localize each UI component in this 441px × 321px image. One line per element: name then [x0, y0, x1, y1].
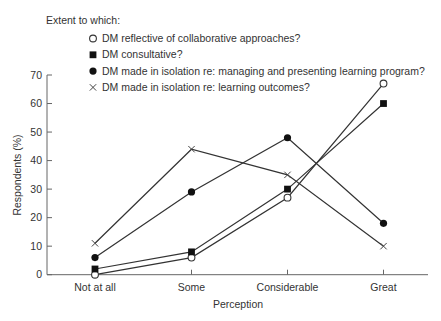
x-axis-label: Perception — [213, 298, 263, 310]
x-tick-label: Some — [178, 281, 206, 293]
series-line — [95, 104, 384, 270]
filled-circle-marker — [188, 188, 195, 195]
y-tick-label: 10 — [30, 240, 42, 252]
open-circle-marker — [380, 80, 387, 87]
cross-marker — [92, 240, 98, 246]
series-markers — [92, 80, 387, 278]
line-chart: Extent to which: DM reflective of collab… — [0, 0, 441, 321]
series-line — [95, 138, 384, 258]
filled-square-marker — [188, 248, 195, 255]
filled-square-marker — [380, 100, 387, 107]
legend-item-label: DM reflective of collaborative approache… — [102, 32, 301, 44]
open-circle-marker — [90, 35, 97, 42]
filled-circle-marker — [91, 254, 98, 261]
filled-circle-marker — [284, 134, 291, 141]
series-filled-circle — [95, 138, 384, 258]
open-circle-marker — [284, 194, 291, 201]
series-markers — [91, 134, 387, 261]
cross-marker — [284, 172, 290, 178]
series-line — [95, 149, 384, 246]
y-tick-label: 40 — [30, 154, 42, 166]
series-filled-square — [95, 104, 384, 270]
series-open-circle — [95, 84, 384, 275]
cross-marker — [188, 146, 194, 152]
series-line — [95, 84, 384, 275]
y-tick-label: 20 — [30, 211, 42, 223]
y-axis-label: Respondents (%) — [11, 134, 23, 215]
x-tick-label: Great — [370, 281, 396, 293]
x-tick-label: Considerable — [257, 281, 319, 293]
legend-title: Extent to which: — [46, 14, 120, 26]
filled-circle-marker — [89, 68, 96, 75]
filled-square-marker — [90, 51, 97, 58]
legend: Extent to which: DM reflective of collab… — [46, 14, 425, 93]
x-tick-label: Not at all — [74, 281, 115, 293]
filled-square-marker — [284, 186, 291, 193]
legend-item-label: DM consultative? — [102, 48, 183, 60]
cross-marker — [90, 84, 96, 90]
y-tick-label: 50 — [30, 126, 42, 138]
filled-square-marker — [92, 266, 99, 273]
filled-circle-marker — [380, 220, 387, 227]
y-tick-label: 60 — [30, 97, 42, 109]
legend-item-label: DM made in isolation re: managing and pr… — [102, 65, 425, 77]
series-cross — [95, 149, 384, 246]
y-tick-label: 70 — [30, 69, 42, 81]
y-tick-label: 0 — [36, 268, 42, 280]
series-group — [91, 80, 387, 278]
y-tick-label: 30 — [30, 183, 42, 195]
legend-item-label: DM made in isolation re: learning outcom… — [102, 81, 310, 93]
cross-marker — [380, 243, 386, 249]
